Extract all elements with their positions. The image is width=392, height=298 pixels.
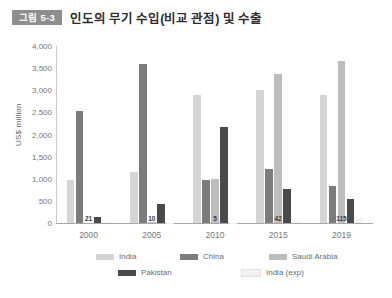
x-axis-tick: 2010 xyxy=(206,230,225,240)
bar-china xyxy=(202,180,210,223)
legend-row-1: India China Saudi Arabia xyxy=(0,252,392,261)
bar-group: 102005 xyxy=(120,46,183,223)
x-axis-tick: 2005 xyxy=(142,230,161,240)
chart-legend: India China Saudi Arabia Pakistan India … xyxy=(0,252,392,277)
legend-label-saudi-arabia: Saudi Arabia xyxy=(292,252,337,261)
bars xyxy=(120,46,183,223)
data-label: 115 xyxy=(336,216,347,223)
y-axis-tick: 2,500 xyxy=(32,108,52,117)
bar-groups: 212000102005520104220151152019 xyxy=(57,46,373,223)
data-label: 5 xyxy=(213,216,217,223)
bar-india xyxy=(193,95,201,223)
y-axis-tick: 3,000 xyxy=(32,86,52,95)
y-axis-tick: 1,000 xyxy=(32,174,52,183)
y-axis-tick: 3,500 xyxy=(32,64,52,73)
x-axis-tick: 2015 xyxy=(269,230,288,240)
legend-swatch-india xyxy=(96,254,114,260)
bar-group: 1152019 xyxy=(310,46,373,223)
figure-header: 그림 5-3 인도의 무기 수입(비교 관점) 및 수출 xyxy=(12,8,262,27)
bar-pakistan xyxy=(283,189,291,223)
legend-item-china: China xyxy=(180,252,269,261)
x-axis-tick: 2019 xyxy=(332,230,351,240)
bar-pakistan xyxy=(157,204,165,223)
bar-group: 212000 xyxy=(57,46,120,223)
x-axis-tick: 2000 xyxy=(79,230,98,240)
legend-row-2: Pakistan India (exp) xyxy=(0,268,392,277)
legend-item-pakistan: Pakistan xyxy=(118,268,241,277)
legend-label-india: India xyxy=(119,252,136,261)
legend-swatch-saudi-arabia xyxy=(269,254,287,260)
y-axis-tick: 0 xyxy=(48,219,52,228)
bars xyxy=(183,46,246,223)
bar-china xyxy=(139,64,147,223)
plot-area: 4,0003,5003,0002,5002,0001,5001,0005000 … xyxy=(56,46,373,224)
legend-item-saudi-arabia: Saudi Arabia xyxy=(269,252,337,261)
figure-title: 인도의 무기 수입(비교 관점) 및 수출 xyxy=(70,8,262,27)
y-axis-label: US$ million xyxy=(14,103,23,146)
data-label: 21 xyxy=(85,216,92,223)
bars xyxy=(57,46,120,223)
bar-china xyxy=(76,111,84,223)
data-label: 42 xyxy=(275,216,282,223)
bar-group: 422015 xyxy=(247,46,310,223)
legend-label-india-exp: India (exp) xyxy=(266,268,304,277)
figure-container: 그림 5-3 인도의 무기 수입(비교 관점) 및 수출 US$ million… xyxy=(0,0,392,298)
bar-pakistan xyxy=(94,217,102,223)
bar-saudi-arabia xyxy=(338,61,346,223)
legend-swatch-china xyxy=(180,254,198,260)
bar-india xyxy=(320,95,328,223)
y-axis-tick: 1,500 xyxy=(32,152,52,161)
data-label: 10 xyxy=(148,216,155,223)
figure-number-badge: 그림 5-3 xyxy=(12,10,62,25)
bar-pakistan xyxy=(220,127,228,223)
y-axis-tick: 4,000 xyxy=(32,42,52,51)
y-axis-tick: 500 xyxy=(39,196,52,205)
bar-india-exp xyxy=(292,221,300,223)
bars xyxy=(247,46,310,223)
bar-india xyxy=(256,90,264,223)
legend-item-india-exp: India (exp) xyxy=(241,268,304,277)
legend-swatch-pakistan xyxy=(118,270,136,276)
bar-india-exp xyxy=(103,222,111,223)
bar-india xyxy=(67,180,75,223)
y-axis-tick: 2,000 xyxy=(32,130,52,139)
bar-china xyxy=(329,186,337,223)
bars xyxy=(310,46,373,223)
bar-india-exp xyxy=(356,218,364,223)
bar-pakistan xyxy=(347,199,355,223)
legend-swatch-india-exp xyxy=(241,269,261,277)
legend-label-pakistan: Pakistan xyxy=(141,268,172,277)
bar-china xyxy=(265,169,273,223)
legend-label-china: China xyxy=(203,252,224,261)
bar-india xyxy=(130,172,138,223)
legend-item-india: India xyxy=(96,252,180,261)
bar-group: 52010 xyxy=(183,46,246,223)
bar-chart: US$ million 4,0003,5003,0002,5002,0001,5… xyxy=(0,34,392,244)
bar-saudi-arabia xyxy=(274,74,282,223)
